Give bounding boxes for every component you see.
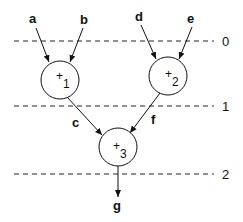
level-label-2: 2 — [222, 167, 229, 182]
edge-label-c: c — [72, 115, 79, 130]
node-index-1: 1 — [63, 77, 70, 91]
dataflow-diagram: 0 1 2 a b d e c f g + 1 + 2 + 3 — [0, 0, 243, 222]
edge-f — [130, 93, 160, 133]
output-label-g: g — [113, 198, 121, 213]
input-label-b: b — [80, 12, 88, 27]
input-label-e: e — [187, 11, 194, 26]
input-label-d: d — [135, 9, 143, 24]
node-op-3: + — [113, 139, 120, 153]
edge-a — [36, 28, 49, 62]
level-label-0: 0 — [222, 34, 229, 49]
node-add-3: + 3 — [99, 128, 137, 166]
node-add-2: + 2 — [149, 57, 187, 95]
edge-e — [179, 27, 192, 59]
level-label-1: 1 — [222, 99, 229, 114]
input-label-a: a — [29, 11, 37, 26]
edge-d — [141, 25, 156, 59]
node-index-3: 3 — [120, 147, 127, 161]
edge-label-f: f — [151, 112, 156, 127]
edge-b — [70, 28, 83, 62]
node-op-2: + — [165, 67, 172, 81]
node-index-2: 2 — [172, 75, 179, 89]
node-op-1: + — [56, 69, 63, 83]
node-add-1: + 1 — [41, 61, 79, 99]
